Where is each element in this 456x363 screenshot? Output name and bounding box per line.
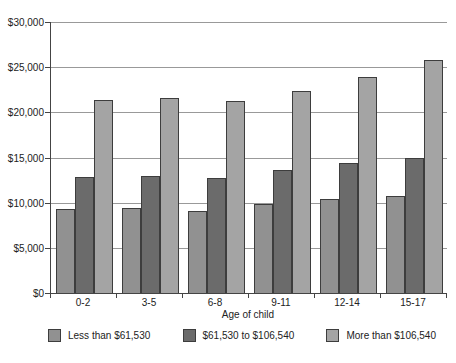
y-tick-mark bbox=[45, 22, 50, 23]
gridline bbox=[51, 67, 447, 68]
legend-label: $61,530 to $106,540 bbox=[203, 330, 295, 341]
x-tick-label: 15-17 bbox=[380, 297, 446, 308]
legend-item-1: $61,530 to $106,540 bbox=[183, 329, 295, 342]
legend-swatch-icon bbox=[326, 329, 339, 342]
bar-15-17-series-1 bbox=[405, 158, 424, 294]
x-tick-mark bbox=[116, 294, 117, 298]
bar-3-5-series-2 bbox=[160, 98, 179, 293]
y-tick-mark bbox=[45, 112, 50, 113]
x-tick-label: 3-5 bbox=[116, 297, 182, 308]
legend-item-0: Less than $61,530 bbox=[48, 329, 150, 342]
legend-swatch-icon bbox=[183, 329, 196, 342]
bar-0-2-series-2 bbox=[94, 100, 113, 293]
bar-0-2-series-1 bbox=[75, 177, 94, 293]
y-tick-label: $0 bbox=[0, 288, 44, 299]
x-tick-mark bbox=[50, 294, 51, 298]
bar-6-8-series-0 bbox=[188, 211, 207, 293]
bar-3-5-series-0 bbox=[122, 208, 141, 293]
bar-3-5-series-1 bbox=[141, 176, 160, 293]
y-tick-label: $20,000 bbox=[0, 107, 44, 118]
y-tick-mark bbox=[45, 158, 50, 159]
bar-6-8-series-2 bbox=[226, 101, 245, 293]
bar-9-11-series-2 bbox=[292, 91, 311, 293]
x-tick-label: 6-8 bbox=[182, 297, 248, 308]
x-tick-mark bbox=[446, 294, 447, 298]
x-tick-mark bbox=[248, 294, 249, 298]
bar-15-17-series-0 bbox=[386, 196, 405, 293]
y-tick-label: $25,000 bbox=[0, 62, 44, 73]
bar-12-14-series-1 bbox=[339, 163, 358, 293]
bar-0-2-series-0 bbox=[56, 209, 75, 293]
y-tick-mark bbox=[45, 248, 50, 249]
bar-12-14-series-2 bbox=[358, 77, 377, 293]
x-tick-mark bbox=[380, 294, 381, 298]
bar-15-17-series-2 bbox=[424, 60, 443, 293]
y-tick-label: $10,000 bbox=[0, 198, 44, 209]
bar-6-8-series-1 bbox=[207, 178, 226, 293]
y-tick-mark bbox=[45, 67, 50, 68]
x-tick-label: 0-2 bbox=[50, 297, 116, 308]
bar-chart-figure: $0$5,000$10,000$15,000$20,000$25,000$30,… bbox=[0, 0, 456, 363]
gridline bbox=[51, 22, 447, 23]
x-tick-label: 12-14 bbox=[314, 297, 380, 308]
plot-area bbox=[50, 22, 447, 294]
legend-label: Less than $61,530 bbox=[68, 330, 150, 341]
legend-item-2: More than $106,540 bbox=[326, 329, 436, 342]
y-tick-label: $30,000 bbox=[0, 17, 44, 28]
x-axis-title: Age of child bbox=[50, 309, 446, 320]
y-tick-label: $15,000 bbox=[0, 153, 44, 164]
x-tick-mark bbox=[182, 294, 183, 298]
x-tick-label: 9-11 bbox=[248, 297, 314, 308]
y-tick-mark bbox=[45, 203, 50, 204]
legend: Less than $61,530$61,530 to $106,540More… bbox=[0, 329, 456, 342]
x-tick-mark bbox=[314, 294, 315, 298]
legend-label: More than $106,540 bbox=[346, 330, 436, 341]
bar-9-11-series-0 bbox=[254, 204, 273, 293]
bar-9-11-series-1 bbox=[273, 170, 292, 293]
legend-swatch-icon bbox=[48, 329, 61, 342]
bar-12-14-series-0 bbox=[320, 199, 339, 293]
y-tick-label: $5,000 bbox=[0, 243, 44, 254]
